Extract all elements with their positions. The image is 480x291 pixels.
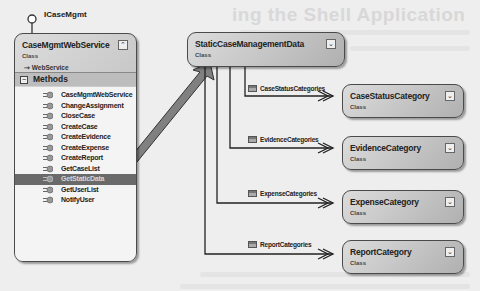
assoc-label-expense: ExpenseCategories [248, 190, 317, 197]
method-icon [43, 133, 53, 141]
class-stereotype: Class [350, 104, 366, 110]
assoc-label-report: ReportCategories [248, 241, 311, 248]
method-item[interactable]: CreateEvidence [15, 132, 136, 143]
method-item[interactable]: ChangeAssignment [15, 101, 136, 112]
case-status-category-shape[interactable]: CaseStatusCategory Class ⌄ [342, 84, 464, 118]
methods-compartment-header[interactable]: − Methods [15, 72, 136, 86]
expand-icon[interactable]: ⌄ [445, 197, 455, 207]
class-name: EvidenceCategory [350, 143, 421, 153]
base-class-label: WebService [32, 64, 69, 71]
method-icon [43, 154, 53, 162]
class-name: CaseStatusCategory [350, 91, 430, 101]
service-class-name: CaseMgmtWebService [22, 40, 109, 50]
assoc-label-evidence: EvidenceCategories [248, 136, 319, 143]
static-class-name: StaticCaseManagementData [195, 39, 304, 49]
assoc-label-case-status: CaseStatusCategories [248, 85, 325, 92]
method-icon [43, 123, 53, 131]
method-item[interactable]: CaseMgmtWebService [15, 90, 136, 101]
class-stereotype: Class [350, 210, 366, 216]
static-class-stereotype: Class [195, 52, 211, 58]
property-icon [248, 136, 257, 143]
report-category-shape[interactable]: ReportCategory Class ⌄ [342, 240, 464, 274]
method-icon [43, 102, 53, 110]
method-icon [43, 186, 53, 194]
property-icon [248, 241, 257, 248]
property-icon [248, 85, 257, 92]
method-item[interactable]: CreateReport [15, 153, 136, 164]
evidence-category-shape[interactable]: EvidenceCategory Class ⌄ [342, 136, 464, 170]
method-item[interactable]: NotifyUser [15, 195, 136, 206]
service-class-shape[interactable]: CaseMgmtWebService Class ⇾ WebService ⌃ … [14, 33, 137, 262]
static-data-class-shape[interactable]: StaticCaseManagementData Class ⌄ [187, 32, 345, 67]
method-item-selected[interactable]: GetStaticData [15, 174, 136, 185]
method-icon [43, 91, 53, 99]
method-item[interactable]: CloseCase [15, 111, 136, 122]
property-icon [248, 190, 257, 197]
minus-icon[interactable]: − [20, 76, 28, 84]
method-icon [43, 165, 53, 173]
interface-label: ICaseMgmt [44, 10, 87, 19]
expand-icon[interactable]: ⌄ [445, 91, 455, 101]
method-item[interactable]: GetCaseList [15, 164, 136, 175]
class-stereotype: Class [350, 156, 366, 162]
method-item[interactable]: GetUserList [15, 185, 136, 196]
expand-icon[interactable]: ⌄ [445, 143, 455, 153]
class-stereotype: Class [350, 260, 366, 266]
method-icon [43, 175, 53, 183]
assoc-line-report [205, 66, 333, 254]
methods-label: Methods [33, 74, 68, 84]
service-class-stereotype: Class [22, 53, 38, 59]
class-name: ReportCategory [350, 247, 411, 257]
class-name: ExpenseCategory [350, 197, 419, 207]
service-class-base: ⇾ WebService [24, 64, 69, 72]
method-item[interactable]: CreateExpense [15, 143, 136, 154]
method-item[interactable]: CreateCase [15, 122, 136, 133]
method-icon [43, 112, 53, 120]
expense-category-shape[interactable]: ExpenseCategory Class ⌄ [342, 190, 464, 224]
expand-icon[interactable]: ⌄ [326, 39, 336, 49]
interface-lollipop-icon [28, 15, 36, 23]
method-icon [43, 144, 53, 152]
returns-arrow[interactable] [128, 62, 214, 162]
collapse-icon[interactable]: ⌃ [118, 40, 128, 50]
expand-icon[interactable]: ⌄ [445, 247, 455, 257]
method-icon [43, 196, 53, 204]
